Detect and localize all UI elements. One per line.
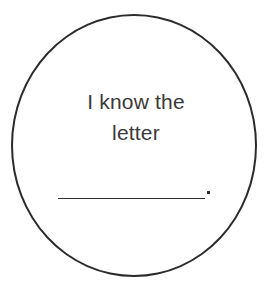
period-mark [207, 191, 210, 194]
letter-recognition-flash-card: I know the letter [0, 0, 272, 290]
prompt-text: I know the letter [0, 86, 272, 148]
prompt-line-1: I know the [0, 86, 272, 117]
answer-row[interactable] [58, 183, 214, 203]
answer-blank-line[interactable] [58, 198, 205, 199]
prompt-line-2: letter [0, 117, 272, 148]
